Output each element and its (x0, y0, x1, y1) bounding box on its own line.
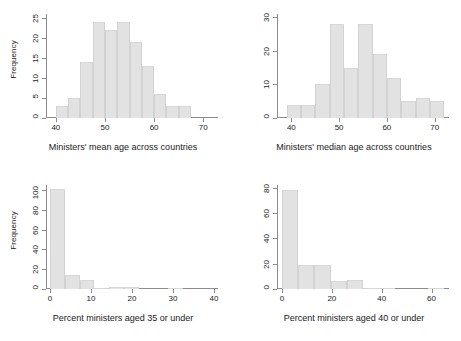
x-axis-title: Percent ministers aged 35 or under (20, 313, 226, 324)
y-tick-mark (273, 118, 277, 119)
histogram-bar (94, 288, 109, 289)
y-axis-line (46, 185, 47, 289)
histogram-bar (330, 24, 344, 118)
y-axis-line (277, 14, 278, 118)
x-tick-mark (56, 118, 57, 122)
histogram-bar (154, 94, 166, 118)
y-tick-label: 60 (263, 209, 271, 218)
y-tick-mark (42, 230, 46, 231)
histogram-bar (347, 280, 363, 289)
x-tick-label: 20 (128, 294, 137, 303)
histogram-bar (68, 98, 80, 118)
y-tick-label: 80 (263, 184, 271, 193)
histogram-bar (166, 106, 178, 118)
x-tick-label: 40 (377, 294, 386, 303)
x-tick-mark (173, 289, 174, 293)
x-axis-title: Percent ministers aged 40 or under (251, 313, 457, 324)
y-tick-label: 60 (32, 226, 40, 235)
y-tick-label: 25 (32, 14, 40, 23)
y-tick-label: 0 (32, 285, 40, 289)
x-tick-mark (339, 118, 340, 122)
y-tick-label: 40 (263, 234, 271, 243)
panel-top-left: Frequency 0510152025 40506070 Ministers'… (0, 0, 230, 170)
x-tick-label: 60 (150, 123, 159, 132)
y-tick-label: 100 (32, 186, 40, 199)
x-tick-label: 20 (327, 294, 336, 303)
histogram-bar (117, 22, 129, 118)
histogram-bar (56, 106, 68, 118)
x-tick-mark (105, 118, 106, 122)
histogram-bar (331, 281, 347, 289)
y-tick-mark (42, 249, 46, 250)
x-tick-mark (203, 118, 204, 122)
x-tick-mark (132, 289, 133, 293)
x-tick-mark (50, 289, 51, 293)
y-tick-mark (273, 238, 277, 239)
histogram-bar (401, 101, 415, 118)
x-tick-label: 30 (168, 294, 177, 303)
plot-area-top-left: 0510152025 40506070 (46, 14, 218, 118)
x-tick-mark (154, 118, 155, 122)
histogram-bar (298, 265, 314, 289)
histogram-bar (373, 54, 387, 118)
panel-top-right: 0102030 40506070 Ministers' median age a… (231, 0, 461, 170)
y-tick-label: 20 (32, 34, 40, 43)
histogram-bar (416, 98, 430, 118)
histogram-bar (65, 275, 80, 289)
x-tick-label: 0 (48, 294, 52, 303)
histogram-bar (109, 287, 124, 289)
x-tick-mark (291, 118, 292, 122)
plot-area-bottom-left: 020406080100 010203040 (46, 185, 218, 289)
histogram-bar (387, 78, 401, 118)
histogram-bar (344, 68, 358, 118)
histogram-bar (287, 105, 301, 118)
histogram-bar (80, 280, 95, 289)
x-tick-label: 60 (382, 123, 391, 132)
y-tick-label: 20 (32, 265, 40, 274)
x-tick-mark (387, 118, 388, 122)
x-tick-label: 40 (51, 123, 60, 132)
y-tick-label: 10 (263, 80, 271, 89)
histogram-bar (130, 42, 142, 118)
y-axis-line (46, 14, 47, 118)
histogram-bar (179, 106, 191, 118)
y-tick-mark (273, 51, 277, 52)
histogram-bar (93, 22, 105, 118)
y-tick-label: 80 (32, 206, 40, 215)
histogram-bar (80, 62, 92, 118)
y-tick-mark (42, 118, 46, 119)
histogram-bar (428, 288, 444, 289)
y-tick-mark (42, 58, 46, 59)
y-tick-label: 10 (32, 74, 40, 83)
histogram-bar (142, 66, 154, 118)
histogram-bar (168, 288, 183, 289)
panel-bottom-right: 020406080 0204060 Percent ministers aged… (231, 171, 461, 341)
x-tick-label: 10 (87, 294, 96, 303)
x-tick-mark (214, 289, 215, 293)
y-tick-mark (42, 269, 46, 270)
y-axis-title: Frequency (6, 171, 20, 289)
y-tick-label: 30 (263, 13, 271, 22)
y-tick-label: 0 (263, 285, 271, 289)
y-tick-label: 40 (32, 245, 40, 254)
x-tick-label: 70 (199, 123, 208, 132)
y-tick-mark (273, 289, 277, 290)
y-tick-mark (42, 38, 46, 39)
y-tick-label: 0 (32, 114, 40, 118)
histogram-bar (314, 265, 330, 289)
x-tick-label: 70 (430, 123, 439, 132)
x-tick-mark (432, 289, 433, 293)
y-tick-label: 15 (32, 54, 40, 63)
histogram-bar (430, 101, 444, 118)
panel-bottom-left: Frequency 020406080100 010203040 Percent… (0, 171, 230, 341)
histogram-bar (105, 30, 117, 118)
y-tick-mark (42, 190, 46, 191)
y-tick-label: 5 (32, 94, 40, 98)
y-tick-label: 20 (263, 260, 271, 269)
y-axis-title: Frequency (6, 0, 20, 118)
y-axis-line (277, 185, 278, 289)
histogram-bar (358, 24, 372, 118)
y-tick-mark (42, 210, 46, 211)
x-tick-mark (91, 289, 92, 293)
y-tick-mark (273, 17, 277, 18)
